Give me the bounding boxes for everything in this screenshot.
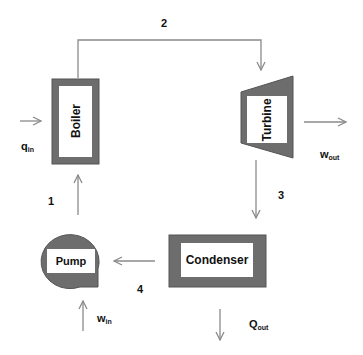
pump-label: Pump xyxy=(56,255,87,267)
turbine: Turbine xyxy=(241,76,293,158)
state-4-label: 4 xyxy=(137,283,144,295)
state-2-label: 2 xyxy=(161,17,167,29)
q-in-label: qin xyxy=(21,140,34,153)
state-3-label: 3 xyxy=(278,189,284,201)
state-1-label: 1 xyxy=(48,195,54,207)
boiler: Boiler xyxy=(52,79,99,164)
w-in-label: win xyxy=(96,312,112,325)
pump: Pump xyxy=(41,235,99,289)
condenser: Condenser xyxy=(169,235,266,287)
q-out-label: Qout xyxy=(249,318,269,331)
turbine-label: Turbine xyxy=(260,98,274,141)
boiler-label: Boiler xyxy=(69,104,83,138)
condenser-label: Condenser xyxy=(186,253,249,267)
line-boiler-to-turbine xyxy=(78,40,261,78)
rankine-cycle-diagram: Boiler Turbine Condenser Pump 2 3 4 1 qi… xyxy=(0,0,363,355)
w-out-label: wout xyxy=(319,148,340,161)
